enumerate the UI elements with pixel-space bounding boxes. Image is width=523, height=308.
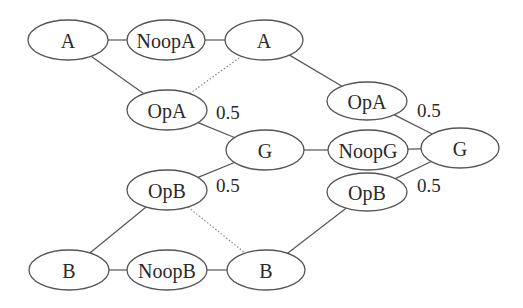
edge-opa1-a2 [190, 56, 242, 93]
node-label: G [258, 140, 272, 162]
node-label: NoopG [339, 140, 398, 163]
edge-b1-opb1 [90, 207, 146, 253]
node-label: OpA [148, 100, 187, 123]
edge-a2-opa2 [290, 55, 342, 86]
node-opb1: OpB [127, 170, 207, 210]
node-label: NoopB [138, 260, 196, 283]
node-g2: G [421, 128, 499, 168]
edge-opa1-g1 [198, 123, 234, 138]
node-b1: B [29, 250, 109, 290]
edge-weight-label: 0.5 [417, 175, 441, 196]
node-label: OpB [348, 182, 386, 205]
node-label: G [453, 138, 467, 160]
node-opa2: OpA [327, 82, 407, 120]
node-label: A [61, 30, 76, 52]
node-b2: B [227, 250, 305, 290]
node-opb2: OpB [327, 173, 407, 211]
node-label: A [257, 30, 272, 52]
node-a1: A [28, 20, 108, 60]
nodes-layer: ANoopAAOpAOpAGNoopGGOpBOpBBNoopBB [28, 20, 499, 290]
node-label: OpB [148, 180, 186, 203]
node-noopg: NoopG [328, 130, 408, 170]
node-opa1: OpA [127, 90, 207, 130]
node-label: B [62, 260, 75, 282]
plan-graph-diagram: ANoopAAOpAOpAGNoopGGOpBOpBBNoopBB 0.50.5… [0, 0, 523, 308]
edge-weight-label: 0.5 [417, 100, 441, 121]
edge-a1-opa1 [91, 56, 144, 93]
node-label: B [259, 260, 272, 282]
node-noopb: NoopB [127, 250, 207, 290]
node-a2: A [225, 20, 303, 60]
node-label: NoopA [137, 30, 196, 53]
edge-b2-opb2 [288, 208, 346, 253]
edge-weight-label: 0.5 [216, 102, 240, 123]
edge-weight-label: 0.5 [216, 175, 240, 196]
node-label: OpA [348, 91, 387, 114]
node-g1: G [226, 130, 304, 170]
node-noopa: NoopA [127, 20, 205, 60]
edge-opb1-b2 [188, 207, 245, 253]
